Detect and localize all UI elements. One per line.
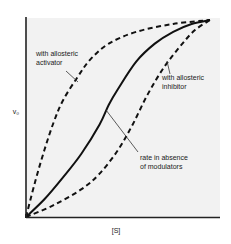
- annotation-leader-1: [66, 71, 78, 82]
- annotation-label-rate-in-absence-of-modulators-line-2: of modulators: [140, 163, 183, 170]
- x-axis-label: [S]: [112, 227, 121, 235]
- y-axis-label: v₀: [13, 108, 20, 115]
- annotation-leader-3: [106, 110, 138, 152]
- annotation-leader-2: [167, 61, 170, 74]
- annotation-label-rate-in-absence-of-modulators-line-1: rate in absence: [140, 154, 188, 161]
- annotation-label-with-allosteric-activator-line-2: activator: [36, 59, 63, 66]
- annotations-group: with allostericactivatorwith allosterici…: [35, 50, 205, 170]
- annotation-label-with-allosteric-activator-line-1: with allosteric: [35, 50, 79, 57]
- annotation-label-with-allosteric-inhibitor-line-1: with allosteric: [161, 74, 205, 81]
- annotation-label-with-allosteric-inhibitor-line-2: inhibitor: [162, 83, 187, 90]
- allosteric-rate-chart: with allostericactivatorwith allosterici…: [0, 0, 231, 244]
